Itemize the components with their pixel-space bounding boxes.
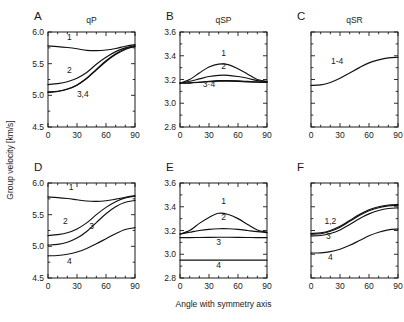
panel-title: qSR: [346, 15, 363, 25]
curve-label: 1-4: [331, 56, 344, 66]
y-axis-title: Group velocity [km/s]: [5, 120, 15, 199]
panel-letter: E: [166, 161, 174, 173]
panel-letter: C: [297, 10, 305, 22]
panel-d: 03060904.55.05.56.0D1234: [32, 161, 140, 291]
panel-title: qSP: [215, 15, 231, 25]
curve-label: 4: [216, 260, 221, 270]
y-tick-label: 5.5: [32, 59, 44, 69]
curve-label: 1: [69, 182, 74, 192]
curve-1-4: [311, 57, 398, 85]
y-tick-label: 2.8: [164, 122, 176, 132]
x-tick-label: 60: [364, 130, 374, 140]
curve-label: 3: [326, 231, 331, 241]
x-tick-label: 90: [393, 281, 403, 291]
x-tick-label: 30: [335, 281, 345, 291]
x-axis-title: Angle with symmetry axis: [176, 299, 272, 309]
curve-label: 4: [67, 256, 72, 266]
curve-label: 3: [216, 237, 221, 247]
curve-label: 2: [67, 65, 72, 75]
x-tick-label: 0: [46, 281, 51, 291]
x-tick-label: 30: [72, 130, 82, 140]
y-tick-label: 6.0: [32, 178, 44, 188]
curve-label: 2: [221, 212, 226, 222]
curve-label: 1,2: [324, 216, 336, 226]
panel-title: qP: [86, 15, 97, 25]
x-tick-label: 90: [393, 130, 403, 140]
y-tick-label: 3.6: [164, 27, 176, 37]
x-tick-label: 30: [335, 130, 345, 140]
x-tick-label: 30: [72, 281, 82, 291]
curve-label: 3: [89, 221, 94, 231]
curve-4: [48, 228, 135, 256]
x-tick-label: 90: [262, 130, 272, 140]
panel-letter: B: [166, 10, 174, 22]
x-tick-label: 60: [233, 130, 243, 140]
y-tick-label: 3.0: [164, 98, 176, 108]
x-tick-label: 60: [233, 281, 243, 291]
x-tick-label: 90: [262, 281, 272, 291]
curve-2: [180, 229, 267, 234]
curve-4: [48, 47, 135, 93]
y-tick-label: 5.5: [32, 210, 44, 220]
y-tick-label: 3.2: [164, 75, 176, 85]
curve-label: 1: [221, 48, 226, 58]
figure-container: 03060904.55.05.56.0AqP123,403060902.83.0…: [0, 0, 404, 322]
panel-e: 03060902.83.03.23.43.6E1234: [164, 161, 272, 291]
x-tick-label: 0: [178, 281, 183, 291]
x-tick-label: 30: [204, 130, 214, 140]
panel-b: 03060902.83.03.23.43.6BqSP123·4: [164, 10, 272, 140]
y-tick-label: 3.2: [164, 226, 176, 236]
y-tick-label: 3.0: [164, 249, 176, 259]
y-tick-label: 6.0: [32, 27, 44, 37]
x-tick-label: 60: [101, 281, 111, 291]
curve-label: 3·4: [203, 79, 216, 89]
plot-frame: [311, 32, 398, 127]
panel-letter: D: [34, 161, 42, 173]
y-tick-label: 5.0: [32, 90, 44, 100]
x-tick-label: 90: [130, 281, 140, 291]
y-tick-label: 4.5: [32, 273, 44, 283]
group-velocity-figure: 03060904.55.05.56.0AqP123,403060902.83.0…: [0, 0, 404, 322]
y-tick-label: 2.8: [164, 273, 176, 283]
curve-label: 4: [328, 252, 333, 262]
x-tick-label: 0: [46, 130, 51, 140]
curve-label: 2: [63, 216, 68, 226]
curve-label: 1: [67, 32, 72, 42]
x-tick-label: 30: [204, 281, 214, 291]
x-tick-label: 0: [309, 281, 314, 291]
x-tick-label: 90: [130, 130, 140, 140]
y-tick-label: 3.4: [164, 51, 176, 61]
x-tick-label: 60: [101, 130, 111, 140]
curve-label: 1: [221, 196, 226, 206]
y-tick-label: 3.6: [164, 178, 176, 188]
panel-letter: F: [297, 161, 304, 173]
curve-label: 3,4: [77, 89, 89, 99]
x-tick-label: 0: [309, 130, 314, 140]
panel-c: 0306090CqSR1-4: [297, 10, 403, 140]
panel-a: 03060904.55.05.56.0AqP123,4: [32, 10, 140, 140]
x-tick-label: 0: [178, 130, 183, 140]
y-tick-label: 3.4: [164, 202, 176, 212]
x-tick-label: 60: [364, 281, 374, 291]
plot-frame: [48, 32, 135, 127]
y-tick-label: 5.0: [32, 241, 44, 251]
panel-letter: A: [34, 10, 42, 22]
panel-f: 0306090F1,234: [297, 161, 403, 291]
y-tick-label: 4.5: [32, 122, 44, 132]
curve-label: 2: [221, 61, 226, 71]
